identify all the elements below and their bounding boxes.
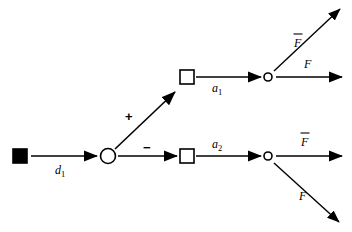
- node-block-upper-square[interactable]: [180, 70, 194, 84]
- node-junction-circle[interactable]: [101, 149, 116, 164]
- edge-block-upper-to-split-upper: a1: [196, 77, 261, 97]
- edge-arrow-f-lower: [274, 163, 339, 222]
- edge-label-plus: +: [125, 109, 133, 124]
- edge-label-f-upper: F: [303, 57, 312, 71]
- signal-flow-diagram: d1 + − a1 a2 F: [0, 0, 352, 232]
- edge-label-f-lower: F: [298, 189, 307, 203]
- edge-label-a1: a1: [212, 81, 222, 97]
- edge-label-d1: d1: [55, 163, 65, 179]
- node-source-filled-square[interactable]: [13, 149, 27, 163]
- edge-block-lower-to-split-lower: a2: [196, 137, 261, 156]
- node-split-upper-circle[interactable]: [264, 73, 272, 81]
- edge-label-a2: a2: [212, 137, 222, 153]
- edge-label-f-bar-lower: F: [300, 135, 309, 149]
- edge-split-lower-out-diagonal: F: [274, 163, 339, 222]
- node-block-lower-square[interactable]: [180, 149, 194, 163]
- edge-source-to-junction: d1: [31, 156, 97, 179]
- edge-label-f-bar-upper: F: [293, 36, 302, 50]
- edge-split-lower-out-horizontal: F: [276, 133, 342, 156]
- edge-junction-to-block-lower: −: [118, 140, 177, 156]
- edge-label-minus: −: [143, 140, 151, 155]
- diagram-canvas: d1 + − a1 a2 F: [0, 0, 352, 232]
- node-split-lower-circle[interactable]: [264, 152, 272, 160]
